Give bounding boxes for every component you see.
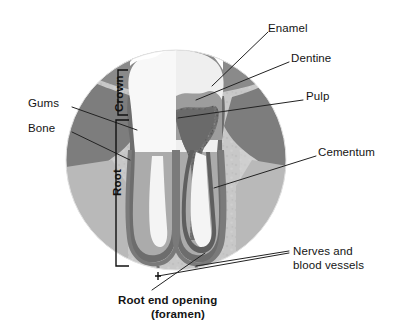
label-nerves-line1: Nerves and (293, 245, 353, 258)
mandibular-canal-band (60, 270, 300, 290)
circular-inset (60, 40, 300, 290)
label-crown: Crown (113, 75, 125, 112)
enamel-left (128, 50, 176, 152)
label-cementum: Cementum (318, 146, 375, 159)
label-pulp: Pulp (306, 90, 329, 103)
label-enamel: Enamel (268, 22, 308, 35)
label-bone: Bone (28, 122, 55, 135)
label-nerves-line2: blood vessels (293, 259, 364, 272)
label-gums: Gums (28, 97, 59, 110)
label-root: Root (111, 169, 123, 196)
foramen-marker (155, 272, 161, 280)
canal-band-edge (110, 274, 250, 281)
label-dentine: Dentine (291, 52, 331, 65)
label-foramen-line1: Root end opening (118, 294, 217, 307)
label-foramen-line2: (foramen) (151, 308, 205, 321)
tooth-cross-section-diagram (0, 0, 399, 334)
